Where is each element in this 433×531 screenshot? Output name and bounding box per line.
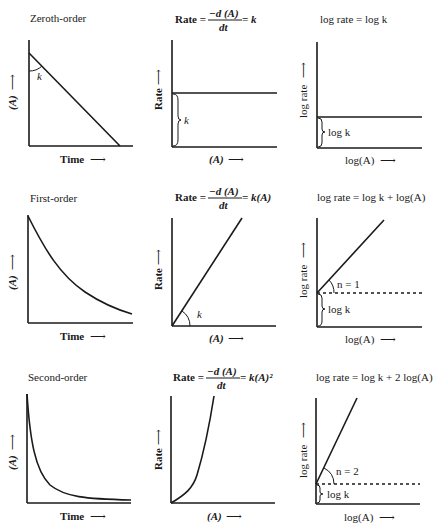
y-axis-arrow: ⟶ [297, 62, 309, 78]
order-label-zeroth: Zeroth-order [30, 12, 87, 24]
zeroth-order-log-plot: log rate = log k log k log rate ⟶ log(A)… [297, 13, 422, 167]
slope-angle-arc [324, 468, 334, 484]
log-eq-text: log rate = log k + 2 log(A) [316, 371, 433, 384]
y-axis-arrow: ⟶ [297, 422, 309, 438]
log-eq-text: log rate = log k + log(A) [317, 191, 426, 204]
rate-eq-suffix: = k(A) [242, 191, 271, 204]
y-axis-label: Rate [152, 88, 164, 110]
brace-icon [318, 118, 325, 147]
x-axis-arrow: ⟶ [380, 154, 396, 166]
x-axis-label: (A) [209, 153, 224, 166]
angle-label: n = 1 [337, 278, 360, 290]
x-axis-arrow: ⟶ [228, 153, 244, 165]
rate-eq-denominator: dt [219, 21, 229, 33]
zeroth-order-concentration-plot: Zeroth-order k (A) ⟶ Time ⟶ [6, 12, 133, 165]
x-axis-label: Time [60, 330, 84, 342]
slope-label: k [37, 70, 43, 82]
x-axis-arrow: ⟶ [90, 153, 106, 165]
x-axis-arrow: ⟶ [228, 332, 244, 344]
brace-label: log k [328, 303, 351, 315]
second-order-log-plot: log rate = log k + 2 log(A) n = 2 log k … [297, 371, 433, 524]
reaction-order-diagram: Zeroth-order k (A) ⟶ Time ⟶ Rate = −d (A… [0, 0, 433, 531]
brace-label: log k [327, 488, 350, 500]
rate-eq-numerator: −d (A) [207, 365, 237, 378]
y-axis-arrow: ⟶ [152, 429, 164, 445]
concentration-curve [28, 216, 132, 314]
rate-eq-denominator: dt [219, 199, 229, 211]
y-axis-label: Rate [152, 268, 164, 290]
x-axis-arrow: ⟶ [90, 330, 106, 342]
x-axis-label: log(A) [345, 154, 375, 167]
rate-line [172, 218, 242, 326]
x-axis-label: log(A) [344, 511, 374, 524]
second-order-rate-plot: Rate = −d (A) dt = k(A)² Rate ⟶ (A) ⟶ [152, 365, 275, 523]
second-order-concentration-plot: Second-order (A) ⟶ Time ⟶ [6, 371, 131, 522]
y-axis-label: log rate [297, 85, 309, 118]
brace-icon [318, 294, 325, 326]
y-axis-label: log rate [297, 445, 309, 478]
order-label-first: First-order [30, 192, 77, 204]
y-axis-arrow: ⟶ [6, 434, 18, 450]
brace-icon [173, 94, 181, 146]
log-eq: log rate = log k + log(A) [317, 191, 426, 204]
rate-eq-numerator: −d (A) [209, 7, 239, 20]
concentration-line [29, 53, 120, 146]
y-axis-label: Rate [152, 448, 164, 470]
brace-label: log k [328, 126, 351, 138]
y-axis-arrow: ⟶ [297, 242, 309, 258]
y-axis-label: (A) [6, 95, 19, 110]
y-axis-arrow: ⟶ [152, 249, 164, 265]
first-order-rate-plot: Rate = −d (A) dt = k(A) k Rate ⟶ (A) ⟶ [152, 185, 276, 345]
first-order-concentration-plot: First-order (A) ⟶ Time ⟶ [6, 192, 133, 342]
rate-eq-suffix: = k(A)² [240, 371, 273, 384]
y-axis-arrow: ⟶ [6, 254, 18, 270]
log-eq: log rate = log k + 2 log(A) [316, 371, 433, 384]
concentration-curve [27, 394, 131, 500]
log-eq: log rate = log k [320, 13, 388, 25]
y-axis-label: (A) [6, 275, 19, 290]
brace-icon [317, 485, 323, 503]
first-order-log-plot: log rate = log k + log(A) n = 1 log k lo… [297, 191, 426, 346]
order-label-second: Second-order [28, 371, 88, 383]
x-axis-label: (A) [209, 332, 224, 345]
log-eq-text: log rate = log k [320, 13, 388, 25]
angle-label: k [197, 308, 203, 320]
y-axis-label: (A) [6, 455, 19, 470]
angle-label: n = 2 [336, 465, 359, 477]
zeroth-order-rate-plot: Rate = −d (A) dt = k k Rate ⟶ (A) ⟶ [152, 7, 277, 166]
x-axis-label: Time [60, 153, 84, 165]
y-axis-label: log rate [297, 265, 309, 298]
slope-angle-arc [329, 280, 334, 293]
slope-angle-arc [182, 311, 190, 326]
y-axis-arrow: ⟶ [152, 69, 164, 85]
rate-eq-denominator: dt [217, 379, 227, 391]
x-axis-arrow: ⟶ [226, 510, 242, 522]
x-axis-label: log(A) [345, 333, 375, 346]
y-axis-arrow: ⟶ [6, 74, 18, 90]
rate-eq-suffix: = k [242, 13, 257, 25]
rate-eq-prefix: Rate = [175, 191, 206, 203]
rate-eq-prefix: Rate = [173, 371, 204, 383]
rate-eq-numerator: −d (A) [209, 185, 239, 198]
x-axis-label: (A) [207, 510, 222, 523]
x-axis-arrow: ⟶ [379, 511, 395, 523]
brace-label: k [184, 114, 190, 126]
rate-eq-prefix: Rate = [175, 13, 206, 25]
rate-curve [171, 396, 214, 503]
x-axis-arrow: ⟶ [90, 510, 106, 522]
x-axis-arrow: ⟶ [380, 333, 396, 345]
x-axis-label: Time [60, 510, 84, 522]
